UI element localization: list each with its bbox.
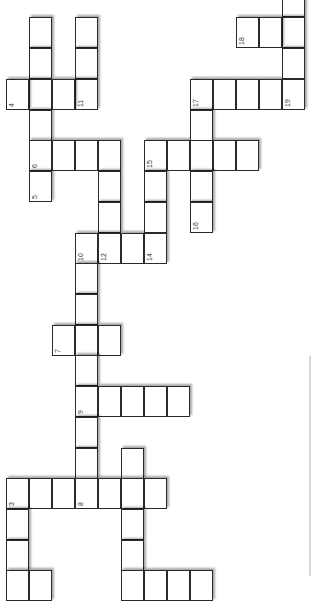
crossword-cell[interactable] <box>144 171 167 202</box>
crossword-cell[interactable] <box>52 478 75 509</box>
crossword-cell[interactable] <box>6 540 29 571</box>
clue-number: 12 <box>100 253 107 261</box>
clue-number: 9 <box>77 410 84 414</box>
crossword-cell[interactable] <box>259 17 282 48</box>
crossword-cell[interactable] <box>29 478 52 509</box>
crossword-cell[interactable] <box>121 386 144 417</box>
crossword-cell[interactable] <box>213 140 236 171</box>
crossword-cell-6[interactable]: 6 <box>29 140 52 171</box>
crossword-cell[interactable] <box>167 140 190 171</box>
crossword-cell-4[interactable]: 4 <box>6 79 29 110</box>
clue-panel-edge <box>309 356 311 576</box>
crossword-cell-17[interactable]: 17 <box>190 79 213 110</box>
crossword-cell[interactable] <box>52 79 75 110</box>
clue-number: 17 <box>192 99 199 107</box>
crossword-cell[interactable] <box>167 386 190 417</box>
clue-number: 14 <box>146 253 153 261</box>
crossword-cell[interactable] <box>29 17 52 48</box>
crossword-cell[interactable] <box>75 140 98 171</box>
crossword-cell-3[interactable]: 3 <box>6 478 29 509</box>
crossword-cell-18[interactable]: 18 <box>236 17 259 48</box>
crossword-cell[interactable] <box>29 570 52 601</box>
crossword-cell[interactable] <box>259 79 282 110</box>
clue-number: 5 <box>31 195 38 199</box>
crossword-cell[interactable] <box>29 48 52 79</box>
crossword-cell[interactable] <box>236 140 259 171</box>
crossword-cell[interactable] <box>29 79 52 110</box>
crossword-cell[interactable] <box>98 325 121 356</box>
crossword-cell[interactable] <box>282 17 305 48</box>
crossword-cell[interactable] <box>190 110 213 141</box>
clue-number: 8 <box>77 502 84 506</box>
crossword-cell-5[interactable]: 5 <box>29 171 52 202</box>
clue-number: 19 <box>284 99 291 107</box>
crossword-cell[interactable] <box>98 171 121 202</box>
crossword-cell[interactable] <box>144 386 167 417</box>
clue-number: 15 <box>146 160 153 168</box>
crossword-cell[interactable] <box>98 478 121 509</box>
crossword-cell[interactable] <box>282 0 305 17</box>
crossword-cell[interactable] <box>75 355 98 386</box>
crossword-cell-12[interactable]: 12 <box>98 233 121 264</box>
crossword-cell[interactable] <box>190 570 213 601</box>
clue-number: 16 <box>192 222 199 230</box>
crossword-cell[interactable] <box>29 110 52 141</box>
crossword-cell[interactable] <box>52 140 75 171</box>
crossword-cell[interactable] <box>75 325 98 356</box>
crossword-cell[interactable] <box>144 570 167 601</box>
crossword-cell[interactable] <box>75 48 98 79</box>
clue-number: 18 <box>238 37 245 45</box>
crossword-cell[interactable] <box>75 448 98 479</box>
crossword-cell[interactable] <box>190 140 213 171</box>
crossword-cell[interactable] <box>98 202 121 233</box>
crossword-cell[interactable] <box>6 509 29 540</box>
crossword-cell-14[interactable]: 14 <box>144 233 167 264</box>
clue-number: 11 <box>77 100 84 107</box>
crossword-cell[interactable] <box>121 540 144 571</box>
crossword-cell[interactable] <box>75 17 98 48</box>
crossword-cell-15[interactable]: 15 <box>144 140 167 171</box>
clue-number: 3 <box>8 502 15 506</box>
crossword-cell[interactable] <box>121 509 144 540</box>
clue-number: 10 <box>77 253 84 261</box>
crossword-cell[interactable] <box>121 233 144 264</box>
crossword-cell[interactable] <box>236 79 259 110</box>
crossword-cell[interactable] <box>75 417 98 448</box>
crossword-cell[interactable] <box>98 140 121 171</box>
crossword-cell[interactable] <box>75 294 98 325</box>
crossword-cell-9[interactable]: 9 <box>75 386 98 417</box>
crossword-cell-8[interactable]: 8 <box>75 478 98 509</box>
crossword-cell[interactable] <box>144 202 167 233</box>
crossword-cell[interactable] <box>6 570 29 601</box>
crossword-cell[interactable] <box>98 386 121 417</box>
crossword-cell[interactable] <box>144 478 167 509</box>
crossword-cell[interactable] <box>121 570 144 601</box>
crossword-cell[interactable] <box>75 263 98 294</box>
crossword-cell[interactable] <box>282 48 305 79</box>
crossword-cell[interactable] <box>167 570 190 601</box>
crossword-cell-16[interactable]: 16 <box>190 202 213 233</box>
clue-number: 6 <box>31 164 38 168</box>
crossword-cell[interactable] <box>190 171 213 202</box>
crossword-cell-10[interactable]: 10 <box>75 233 98 264</box>
clue-number: 4 <box>8 103 15 107</box>
crossword-cell-11[interactable]: 11 <box>75 79 98 110</box>
crossword-cell-19[interactable]: 19 <box>282 79 305 110</box>
crossword-cell[interactable] <box>121 478 144 509</box>
clue-number: 7 <box>54 349 61 353</box>
crossword-cell[interactable] <box>121 448 144 479</box>
crossword-cell-7[interactable]: 7 <box>52 325 75 356</box>
crossword-cell[interactable] <box>213 79 236 110</box>
